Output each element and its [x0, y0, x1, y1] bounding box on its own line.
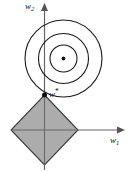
w2-axis-label: w2: [25, 2, 34, 13]
contour-center-dot-icon: [62, 57, 66, 61]
w-star-label: w*: [49, 88, 59, 99]
optimum-w-star-dot: [42, 93, 47, 98]
w1-axis-label: w1: [110, 136, 119, 147]
w2-axis-label-sub: 2: [31, 5, 34, 12]
w1-axis-label-sub: 1: [116, 139, 119, 146]
w-star-label-star: *: [55, 87, 59, 96]
diagram-canvas: w2 w1 w*: [0, 0, 133, 172]
